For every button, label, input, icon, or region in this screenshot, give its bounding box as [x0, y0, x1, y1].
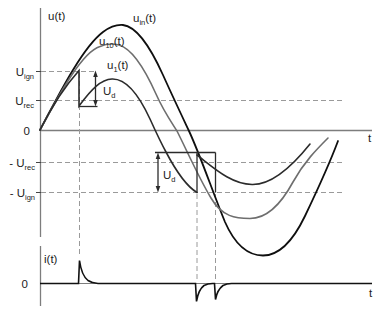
- u-in-suffix: (t): [145, 12, 156, 24]
- u-ign-sub: ign: [24, 72, 34, 81]
- u-axis-label: u(t): [48, 10, 65, 22]
- ud-pos-sub: d: [111, 91, 115, 100]
- waveform-diagram: u(t) t 0 Uign Urec - Urec - Uign uin(t) …: [0, 0, 384, 318]
- ud-neg-base: U: [163, 169, 171, 181]
- labels: u(t) t 0 Uign Urec - Urec - Uign uin(t) …: [9, 10, 373, 299]
- curve-u-in: [40, 25, 338, 256]
- curve-label-u-10: u10(t): [99, 35, 125, 50]
- ud-arrowhead-down-positive: [93, 100, 98, 107]
- u-rec-sub: rec: [24, 101, 35, 110]
- ud-pos-base: U: [103, 85, 111, 97]
- u-10-sub: 10: [105, 41, 113, 50]
- zero-label-top: 0: [24, 125, 30, 137]
- level-label-u-ign: Uign: [16, 66, 34, 81]
- level-label-neg-u-ign: - Uign: [10, 187, 35, 202]
- i-axis-label: i(t): [44, 253, 58, 265]
- ud-arrowhead-down-negative: [156, 186, 161, 193]
- ud-label-positive: Ud: [103, 85, 115, 100]
- curve-label-u-1: u1(t): [107, 59, 129, 74]
- u-1-suffix: (t): [118, 59, 129, 71]
- neg-u-rec-base: - U: [9, 157, 24, 169]
- reference-lines: [41, 72, 345, 282]
- ud-neg-sub: d: [171, 175, 175, 184]
- u-10-suffix: (t): [114, 35, 125, 47]
- axes: [36, 8, 372, 306]
- curve-u-1-after-reignition: [197, 144, 310, 185]
- u-rec-base: U: [15, 95, 23, 107]
- neg-u-ign-sub: ign: [25, 193, 35, 202]
- zero-label-bottom: 0: [22, 278, 28, 290]
- ud-arrowhead-up-negative: [156, 153, 161, 160]
- neg-u-ign-base: - U: [10, 187, 25, 199]
- current-trace: [40, 261, 372, 302]
- neg-u-rec-sub: rec: [25, 163, 36, 172]
- waveform-svg: u(t) t 0 Uign Urec - Urec - Uign uin(t) …: [0, 0, 384, 318]
- ud-label-negative: Ud: [163, 169, 175, 184]
- curve-label-u-in: uin(t): [133, 12, 156, 27]
- t-axis-label-top: t: [368, 132, 372, 144]
- t-axis-label-bottom: t: [369, 287, 373, 299]
- u-ign-base: U: [16, 66, 24, 78]
- voltage-curves: [40, 25, 338, 256]
- level-label-u-rec: Urec: [15, 95, 34, 110]
- level-label-neg-u-rec: - Urec: [9, 157, 35, 172]
